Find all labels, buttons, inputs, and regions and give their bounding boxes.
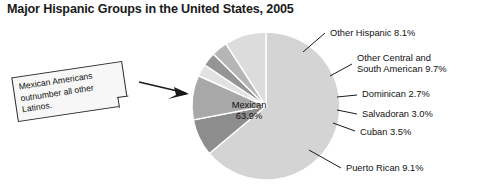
callout-arrow-icon bbox=[139, 82, 189, 99]
callout-note-folded-corner bbox=[117, 95, 130, 108]
slice-label-mexican-value: 63.9% bbox=[218, 111, 280, 122]
slice-label-other-central-line1: Other Central and bbox=[357, 53, 446, 64]
slice-label-other-hispanic: Other Hispanic 8.1% bbox=[330, 28, 415, 39]
slice-label-mexican: Mexican 63.9% bbox=[218, 100, 280, 122]
leader-line-other-central bbox=[330, 64, 352, 76]
slice-label-puerto-rican: Puerto Rican 9.1% bbox=[346, 163, 424, 174]
pie-chart-figure: Major Hispanic Groups in the United Stat… bbox=[0, 0, 478, 196]
slice-label-other-central-south-american: Other Central and South American 9.7% bbox=[357, 53, 446, 75]
slice-label-salvadoran: Salvadoran 3.0% bbox=[362, 109, 433, 120]
slice-label-dominican: Dominican 2.7% bbox=[362, 89, 430, 100]
slice-label-mexican-name: Mexican bbox=[218, 100, 280, 111]
slice-label-other-central-line2: South American 9.7% bbox=[357, 64, 446, 75]
slice-label-cuban: Cuban 3.5% bbox=[360, 127, 411, 138]
